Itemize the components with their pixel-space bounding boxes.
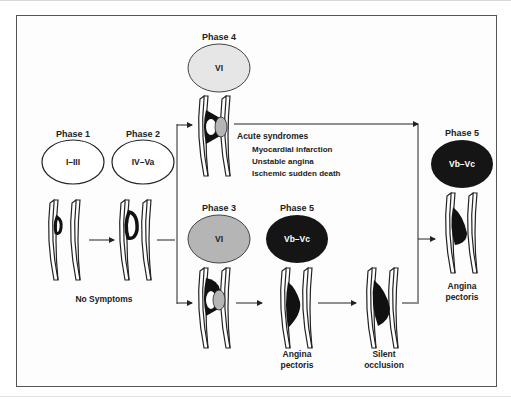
fibrous-lesion-icon [126,212,137,238]
phase-1-vessel [49,200,80,280]
phase-4-vessel [199,96,230,176]
phase-5-right-label: Phase 5 [445,128,479,138]
phase-2-group: Phase 2 IV–Va [112,129,174,280]
phase-5-mid-group: Phase 5 Vb–Vc Angina pectoris [266,203,328,370]
phase-2-label: Phase 2 [126,129,160,139]
phase-5-right-lesion-type: Vb–Vc [449,159,475,169]
phase-5-mid-lesion-type: Vb–Vc [284,234,310,244]
phase-5-mid-vessel [281,268,312,348]
thrombus-icon [215,117,227,137]
acute-item-mi: Myocardial infarction [252,145,333,154]
phase-5-mid-label: Phase 5 [280,203,314,213]
fibrotic-plaque-icon [286,282,300,328]
atherosclerosis-progression-diagram: Phase 1 I–III Phase 2 IV–Va Phase 4 VI [0,0,511,401]
phase-1-label: Phase 1 [56,129,90,139]
no-symptoms-label: No Symptoms [75,294,132,304]
phase-3-group: Phase 3 VI [188,203,250,348]
phase-1-group: Phase 1 I–III [42,129,104,280]
phase-2-vessel [120,200,151,280]
phase-4-label: Phase 4 [202,32,236,42]
phase-3-lesion-type: VI [215,234,223,244]
phase-3-vessel [199,268,230,348]
acute-item-sudden-death: Ischemic sudden death [252,169,341,178]
angina-right-line2: pectoris [445,292,478,302]
phase-4-group: Phase 4 VI [188,32,250,176]
thrombus-icon [213,290,225,310]
fibrotic-plaque-icon [451,207,467,245]
phase-2-lesion-type: IV–Va [132,157,155,167]
angina-mid-line1: Angina [283,349,312,359]
angina-mid-line2: pectoris [280,360,313,370]
acute-item-unstable-angina: Unstable angina [252,157,314,166]
silent-occlusion-group: Silent occlusion [364,268,404,370]
phase-1-lesion-type: I–III [66,157,80,167]
angina-right-line1: Angina [448,281,477,291]
phase-5-right-group: Phase 5 Vb–Vc Angina pectoris [431,128,493,302]
silent-line2: occlusion [364,360,404,370]
silent-line1: Silent [372,349,395,359]
phase-5-right-vessel [446,193,477,273]
early-lesion-icon [55,217,61,233]
phase-3-label: Phase 3 [202,203,236,213]
occlusion-vessel [367,268,398,348]
acute-syndromes-title: Acute syndromes [237,131,309,141]
occlusion-plaque-icon [373,280,390,326]
phase-4-lesion-type: VI [215,63,223,73]
